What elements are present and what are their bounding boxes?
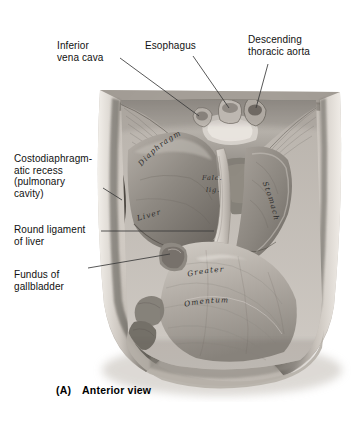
in-label-falciform-ligament-1: Falc. bbox=[201, 174, 222, 182]
callout-esophagus: Esophagus bbox=[145, 40, 196, 52]
gallbladder-fundus bbox=[159, 243, 187, 271]
caption-view-text: Anterior view bbox=[82, 384, 151, 396]
callout-costodiaphragmatic-recess: Costodiaphragm- atic recess (pulmonary c… bbox=[14, 153, 92, 199]
callout-descending-thoracic-aorta: Descending thoracic aorta bbox=[248, 34, 310, 57]
callout-round-ligament-of-liver: Round ligament of liver bbox=[14, 224, 85, 247]
callout-fundus-of-gallbladder: Fundus of gallbladder bbox=[14, 269, 64, 292]
caption-panel-label: (A) bbox=[56, 384, 71, 396]
callout-inferior-vena-cava: Inferior vena cava bbox=[57, 40, 104, 63]
abdominal-cavity-contents bbox=[110, 95, 330, 385]
abdominal-cavity-illustration: Diaphragm Liver Falc. lig. Stomach Great… bbox=[0, 0, 359, 425]
figure-caption: (A) Anterior view bbox=[56, 384, 151, 396]
in-label-falciform-ligament-2: lig. bbox=[206, 186, 220, 194]
anatomical-figure: Diaphragm Liver Falc. lig. Stomach Great… bbox=[0, 0, 359, 425]
